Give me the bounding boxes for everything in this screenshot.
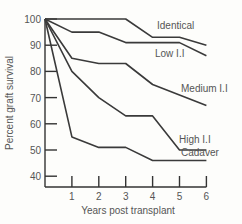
y-tick-label: 100 bbox=[24, 14, 41, 25]
series-label: High I.I bbox=[179, 134, 211, 145]
y-tick-label: 40 bbox=[30, 171, 42, 182]
y-tick-label: 60 bbox=[30, 119, 42, 130]
series-label: Cadaver bbox=[181, 147, 219, 158]
series-label: Identical bbox=[157, 20, 194, 31]
x-tick-label: 1 bbox=[69, 191, 75, 202]
x-tick-label: 4 bbox=[150, 191, 156, 202]
y-tick-label: 80 bbox=[30, 66, 42, 77]
series-label: Medium I.I bbox=[181, 83, 228, 94]
y-axis-title: Percent graft survival bbox=[4, 56, 15, 150]
graft-survival-chart: 100908070605040123456 IdenticalLow I.IMe… bbox=[0, 0, 242, 224]
y-tick-label: 90 bbox=[30, 40, 42, 51]
axes: 100908070605040123456 bbox=[24, 14, 209, 202]
y-tick-label: 50 bbox=[30, 145, 42, 156]
series-label: Low I.I bbox=[155, 48, 184, 59]
y-tick-label: 70 bbox=[30, 93, 42, 104]
x-axis-title: Years post transplant bbox=[81, 205, 175, 216]
x-tick-label: 5 bbox=[177, 191, 183, 202]
x-tick-label: 2 bbox=[96, 191, 102, 202]
x-tick-label: 3 bbox=[123, 191, 129, 202]
x-tick-label: 6 bbox=[204, 191, 210, 202]
